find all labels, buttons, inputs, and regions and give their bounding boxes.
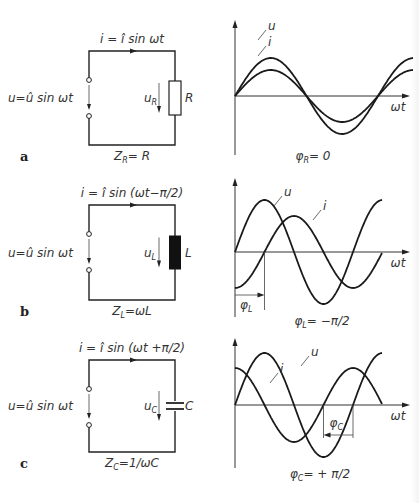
source-equation: u=û sin ωt [8,246,74,260]
figure-label-part: b [20,304,29,319]
leader-u [258,30,266,40]
phase-caption-part: = + π/2 [303,467,350,481]
phase-marker-label-part: C [337,423,343,432]
current-equation-part: sin (ωt−π/2) [105,186,183,200]
current-equation-part: = [82,341,100,355]
leader-u [274,196,282,206]
phase-marker-label: φC [330,416,344,432]
figure-label: c [20,456,28,471]
current-equation-part: sin ωt [124,32,165,46]
phase-caption-part: = −π/2 [307,314,350,328]
source-arrowhead-icon [87,258,91,264]
phase-caption-part: φ [294,314,302,328]
terminal-top-icon [87,387,92,392]
phase-caption: φL= −π/2 [294,314,349,330]
leader-i [313,210,321,220]
source-equation-part: sin ωt [33,246,74,260]
element-voltage-label: uL [144,246,156,262]
x-axis-label: ωt [391,100,407,114]
element-arrowhead-icon [157,261,161,268]
curve-label-i: i [268,35,272,49]
source-equation-part: sin ωt [33,91,74,105]
impedance-label: ZR= R [113,149,150,165]
current-equation: i = î sin ωt [100,32,165,46]
leader-i [270,373,278,383]
curve-label-i-part: i [268,35,272,49]
y-axis-arrow-icon [233,178,238,186]
source-arrowhead-icon [87,413,91,419]
inductor-icon [169,236,181,270]
source-equation: u=û sin ωt [8,91,74,105]
circuit-wire [89,51,175,145]
terminal-bottom-icon [87,268,92,273]
circuit-wire [89,360,175,452]
x-axis-arrow-icon [402,403,410,408]
phase-marker-label-part: φ [240,298,248,312]
impedance-label: ZL=ωL [111,304,152,320]
current-arrow-icon [130,49,137,54]
x-axis-arrow-icon [402,94,410,99]
phase-arrowhead-icon [258,293,265,298]
circuit-a: uRRi = î sin ωtu=û sin ωtZR= Ra [8,32,193,165]
current-equation: i = î sin (ωt−π/2) [81,186,183,200]
element-name-label: C [185,399,194,413]
phase-caption-part: φ [296,149,304,163]
terminal-bottom-icon [87,114,92,119]
curve-label-u-part: u [311,345,319,359]
terminal-bottom-icon [87,423,92,428]
phase-caption: φR= 0 [296,149,331,165]
element-name-label-part: R [185,91,193,105]
figure-label-part: a [20,149,29,164]
phase-marker-label-part: L [248,305,252,314]
plot-b: ωtuiφLφL= −π/2 [233,178,411,330]
source-equation: u=û sin ωt [8,399,74,413]
impedance-label-part: = R [128,149,150,163]
panel-b: uLLi = î sin (ωt−π/2)u=û sin ωtZL=ωLbωtu… [8,178,410,330]
phase-marker-label: φL [240,298,252,314]
curve-label-i: i [280,362,284,376]
current-arrow-icon [130,203,137,208]
current-equation-part: sin (ωt +π/2) [103,341,185,355]
element-name-label: L [185,246,192,260]
curve-label-u: u [284,185,292,199]
element-voltage-label-part: C [152,406,158,415]
source-equation-part: = [16,246,26,260]
curve-label-i-part: i [323,199,327,213]
element-voltage-label: uR [144,91,157,107]
curve-label-i-part: i [280,362,284,376]
panel-a: uRRi = î sin ωtu=û sin ωtZR= RaωtuiφR= 0 [8,19,413,165]
x-axis-label-part: ωt [391,100,407,114]
current-equation: i = î sin (ωt +π/2) [79,341,185,355]
current-arrow-icon [130,358,137,363]
x-axis-label-part: ωt [391,409,407,423]
leader-u [301,356,309,366]
impedance-label: ZC=1/ωC [104,456,160,472]
element-name-label: R [185,91,193,105]
terminal-top-icon [87,78,92,83]
x-axis-label: ωt [391,256,407,270]
figure-label: b [20,304,29,319]
x-axis-arrow-icon [402,250,410,255]
current-equation-part: = [103,32,121,46]
leader-i [258,46,266,56]
phase-arrowhead-icon [324,433,331,438]
diagram-canvas: uRRi = î sin ωtu=û sin ωtZR= RaωtuiφR= 0… [0,0,419,503]
plot-a: ωtuiφR= 0 [233,19,414,165]
y-axis-arrow-icon [233,338,238,346]
curve-label-u-part: u [284,185,292,199]
phase-caption-part: = 0 [309,149,331,163]
element-arrowhead-icon [157,414,161,421]
element-voltage-label-part: L [152,253,156,262]
element-name-label-part: L [185,246,192,260]
impedance-label-part: =1/ωC [119,456,160,470]
curve-label-i: i [323,199,327,213]
circuit-b: uLLi = î sin (ωt−π/2)u=û sin ωtZL=ωLb [8,186,192,320]
curve-label-u: u [268,19,276,33]
y-axis-arrow-icon [233,20,238,28]
curve-label-u: u [311,345,319,359]
resistor-icon [169,81,181,115]
element-voltage-label: uC [144,399,158,415]
element-voltage-label-part: R [152,98,158,107]
source-arrowhead-icon [87,104,91,110]
phase-marker-label-part: φ [330,416,338,430]
